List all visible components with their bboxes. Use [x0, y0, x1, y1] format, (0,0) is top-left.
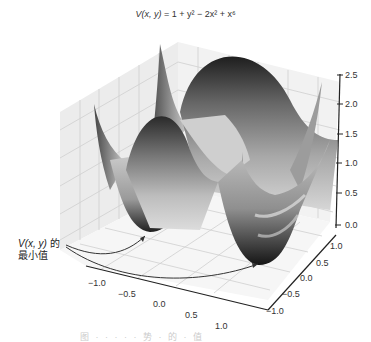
x-tick-label: −1.0 [88, 278, 106, 288]
y-tick-label: 0.5 [316, 258, 329, 268]
y-tick-label: 0.0 [300, 273, 313, 283]
annotation-function: V(x, y) [18, 238, 47, 249]
z-tick-label: 2.0 [345, 99, 358, 109]
annotation-suffix: 的 [47, 238, 60, 249]
annotation-line2: 最小值 [18, 250, 60, 262]
z-tick-label: 1.5 [345, 129, 358, 139]
z-tick-label: 1.0 [345, 158, 358, 168]
x-tick-label: 0.0 [153, 299, 166, 309]
x-tick-label: 0.5 [185, 310, 198, 320]
y-tick-label: 1.0 [330, 241, 343, 251]
x-tick-label: −0.5 [118, 289, 136, 299]
z-tick-label: 2.5 [345, 70, 358, 80]
surface-plot-figure: V(x, y) = 1 + y² − 2x² + x⁶ [0, 0, 371, 342]
y-tick-label: −1.0 [266, 306, 284, 316]
plot-3d-axes [0, 0, 371, 342]
figure-caption: 图 · · · · · 势 · 的 · 值 [80, 330, 204, 342]
y-tick-label: −0.5 [282, 289, 300, 299]
z-tick-label: 0.5 [345, 188, 358, 198]
x-tick-label: 1.0 [215, 321, 228, 331]
z-tick-label: 0.0 [345, 220, 358, 230]
minimum-annotation: V(x, y) 的 最小值 [18, 238, 60, 262]
